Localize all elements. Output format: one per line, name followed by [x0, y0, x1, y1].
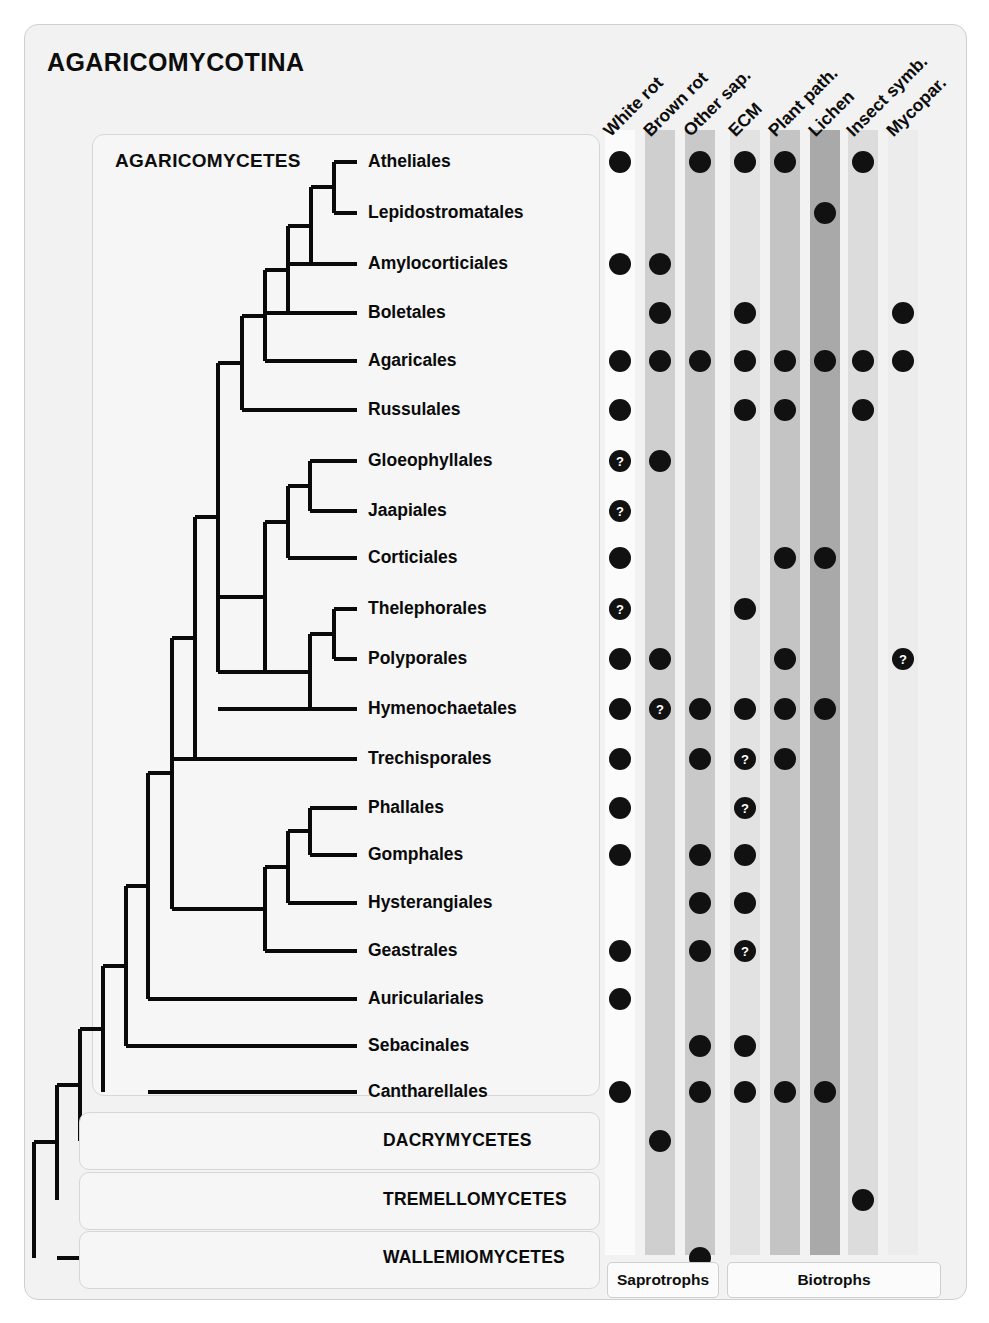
cell-boletales-mycopar	[892, 302, 914, 324]
taxon-label-corticiales: Corticiales	[368, 549, 457, 567]
cell-agaricales-white_rot	[609, 350, 631, 372]
cell-amylocorticiales-brown_rot	[649, 253, 671, 275]
cell-atheliales-other_sap	[689, 151, 711, 173]
cell-agaricales-other_sap	[689, 350, 711, 372]
cell-hymenochaetales-plant_path	[774, 698, 796, 720]
taxon-label-geastrales: Geastrales	[368, 942, 458, 960]
taxon-label-agaricales: Agaricales	[368, 352, 457, 370]
cell-phallales-ecm: ?	[734, 797, 756, 819]
cell-sebacinales-ecm	[734, 1035, 756, 1057]
taxon-label-amylocorticiales: Amylocorticiales	[368, 255, 508, 273]
taxon-label-wallemiomycetes: WALLEMIOMYCETES	[383, 1249, 565, 1267]
cell-hysterangiales-other_sap	[689, 892, 711, 914]
cell-russulales-insect_symb	[852, 399, 874, 421]
taxon-label-phallales: Phallales	[368, 799, 444, 817]
cell-cantharellales-plant_path	[774, 1081, 796, 1103]
taxon-label-thelephorales: Thelephorales	[368, 600, 487, 618]
cell-jaapiales-white_rot: ?	[609, 500, 631, 522]
cell-geastrales-other_sap	[689, 940, 711, 962]
cell-agaricales-brown_rot	[649, 350, 671, 372]
cell-atheliales-white_rot	[609, 151, 631, 173]
cell-hymenochaetales-ecm	[734, 698, 756, 720]
cell-agaricales-plant_path	[774, 350, 796, 372]
cell-polyporales-brown_rot	[649, 648, 671, 670]
group-label-saprotrophs: Saprotrophs	[607, 1262, 719, 1298]
cell-agaricales-mycopar	[892, 350, 914, 372]
cell-agaricales-lichen	[814, 350, 836, 372]
cell-polyporales-white_rot	[609, 648, 631, 670]
cell-boletales-ecm	[734, 302, 756, 324]
cell-gomphales-white_rot	[609, 844, 631, 866]
figure-root: AGARICOMYCOTINA AGARICOMYCETES	[0, 0, 989, 1323]
cell-gloeophyllales-white_rot: ?	[609, 450, 631, 472]
cell-cantharellales-ecm	[734, 1081, 756, 1103]
taxon-label-atheliales: Atheliales	[368, 153, 451, 171]
cell-hymenochaetales-brown_rot: ?	[649, 698, 671, 720]
taxon-label-gomphales: Gomphales	[368, 846, 463, 864]
cell-atheliales-insect_symb	[852, 151, 874, 173]
cell-phallales-white_rot	[609, 797, 631, 819]
cell-trechisporales-plant_path	[774, 748, 796, 770]
cell-agaricales-insect_symb	[852, 350, 874, 372]
taxon-label-jaapiales: Jaapiales	[368, 502, 447, 520]
cell-hymenochaetales-other_sap	[689, 698, 711, 720]
column-band-insect_symb	[848, 130, 878, 1255]
taxon-label-lepidostromatales: Lepidostromatales	[368, 204, 524, 222]
group-label-biotrophs: Biotrophs	[727, 1262, 941, 1298]
taxon-label-auriculariales: Auriculariales	[368, 990, 484, 1008]
cell-russulales-plant_path	[774, 399, 796, 421]
cell-corticiales-white_rot	[609, 547, 631, 569]
cell-sebacinales-other_sap	[689, 1035, 711, 1057]
cell-auriculariales-white_rot	[609, 988, 631, 1010]
cell-tremellomycetes-insect_symb	[852, 1189, 874, 1211]
cell-thelephorales-white_rot: ?	[609, 598, 631, 620]
cell-geastrales-white_rot	[609, 940, 631, 962]
cell-trechisporales-ecm: ?	[734, 748, 756, 770]
cell-agaricales-ecm	[734, 350, 756, 372]
taxon-label-hysterangiales: Hysterangiales	[368, 894, 493, 912]
cell-dacrymycetes-brown_rot	[649, 1130, 671, 1152]
taxon-label-gloeophyllales: Gloeophyllales	[368, 452, 492, 470]
taxon-label-tremellomycetes: TREMELLOMYCETES	[383, 1191, 567, 1209]
cell-gomphales-ecm	[734, 844, 756, 866]
taxon-label-trechisporales: Trechisporales	[368, 750, 492, 768]
cell-russulales-ecm	[734, 399, 756, 421]
cell-cantharellales-other_sap	[689, 1081, 711, 1103]
cell-trechisporales-other_sap	[689, 748, 711, 770]
cell-cantharellales-white_rot	[609, 1081, 631, 1103]
taxon-label-dacrymycetes: DACRYMYCETES	[383, 1132, 532, 1150]
cell-hymenochaetales-lichen	[814, 698, 836, 720]
taxon-label-polyporales: Polyporales	[368, 650, 467, 668]
cell-geastrales-ecm: ?	[734, 940, 756, 962]
cell-hymenochaetales-white_rot	[609, 698, 631, 720]
cell-russulales-white_rot	[609, 399, 631, 421]
taxon-label-boletales: Boletales	[368, 304, 446, 322]
cell-corticiales-lichen	[814, 547, 836, 569]
column-band-mycopar	[888, 130, 918, 1255]
cell-cantharellales-lichen	[814, 1081, 836, 1103]
cell-boletales-brown_rot	[649, 302, 671, 324]
cell-hysterangiales-ecm	[734, 892, 756, 914]
cell-thelephorales-ecm	[734, 598, 756, 620]
cell-lepidostromatales-lichen	[814, 202, 836, 224]
column-band-brown_rot	[645, 130, 675, 1255]
taxon-label-hymenochaetales: Hymenochaetales	[368, 700, 517, 718]
cell-polyporales-mycopar: ?	[892, 648, 914, 670]
taxon-label-russulales: Russulales	[368, 401, 460, 419]
cell-polyporales-plant_path	[774, 648, 796, 670]
cell-atheliales-ecm	[734, 151, 756, 173]
cell-trechisporales-white_rot	[609, 748, 631, 770]
cell-amylocorticiales-white_rot	[609, 253, 631, 275]
cell-corticiales-plant_path	[774, 547, 796, 569]
taxon-label-sebacinales: Sebacinales	[368, 1037, 469, 1055]
cell-gloeophyllales-brown_rot	[649, 450, 671, 472]
taxon-label-cantharellales: Cantharellales	[368, 1083, 488, 1101]
cell-atheliales-plant_path	[774, 151, 796, 173]
cell-gomphales-other_sap	[689, 844, 711, 866]
